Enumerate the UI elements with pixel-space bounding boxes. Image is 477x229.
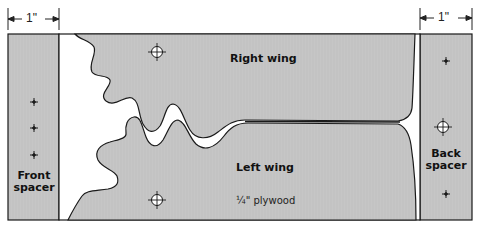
front-spacer-dimension-label: 1" — [24, 11, 39, 25]
wing-seam — [245, 122, 400, 123]
front-spacer-label-line2: spacer — [12, 182, 56, 194]
front-spacer-label: Front spacer — [12, 170, 56, 194]
left-wing-label: Left wing — [236, 162, 294, 174]
back-spacer-label: Back spacer — [423, 148, 469, 172]
right-wing-label: Right wing — [230, 53, 297, 65]
back-spacer-dimension-label: 1" — [436, 10, 451, 24]
material-label: ¼" plywood — [236, 195, 295, 206]
back-spacer-label-line2: spacer — [423, 160, 469, 172]
